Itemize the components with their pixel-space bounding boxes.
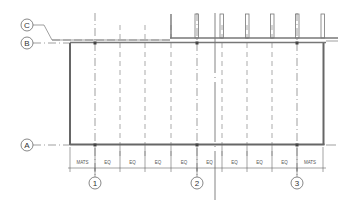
grid-bubble-c: C <box>21 19 33 31</box>
svg-text:A: A <box>24 141 30 150</box>
dim-label: EQ <box>129 160 136 165</box>
column-grid-bubbles: 1 2 3 <box>89 168 303 189</box>
svg-text:B: B <box>24 39 29 48</box>
grid-bubble-a: A <box>21 139 33 151</box>
dimension-labels: MATS EQ EQ EQ EQ EQ EQ EQ EQ MATS <box>76 160 316 165</box>
row-grid-bubbles: C B A <box>21 19 33 151</box>
grid-bubble-3: 3 <box>291 168 303 189</box>
dashed-column-lines <box>120 25 272 160</box>
dim-label: EQ <box>281 160 288 165</box>
svg-text:C: C <box>24 21 30 30</box>
grid-bubble-b: B <box>21 37 33 49</box>
grid-bubble-2: 2 <box>191 168 203 189</box>
plan-drawing: MATS EQ EQ EQ EQ EQ EQ EQ EQ MATS C B A … <box>0 0 353 207</box>
svg-text:2: 2 <box>195 179 200 188</box>
top-posts <box>171 14 325 38</box>
dim-label: EQ <box>231 160 238 165</box>
dim-label: EQ <box>155 160 162 165</box>
dim-label: EQ <box>181 160 188 165</box>
grid-bubble-1: 1 <box>89 168 101 189</box>
dim-label: EQ <box>256 160 263 165</box>
svg-text:3: 3 <box>295 179 300 188</box>
dim-label: EQ <box>104 160 111 165</box>
dim-label: MATS <box>304 160 316 165</box>
dim-label: EQ <box>206 160 213 165</box>
dim-label: MATS <box>76 160 88 165</box>
intersection-markers <box>94 42 299 147</box>
svg-text:1: 1 <box>93 179 98 188</box>
